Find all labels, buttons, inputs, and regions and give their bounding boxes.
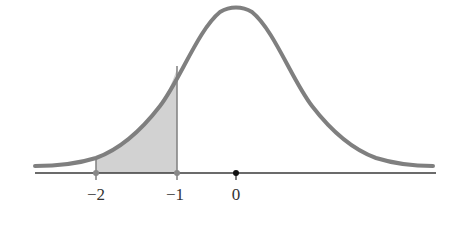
marker-zero (233, 170, 239, 176)
marker-minus-1 (174, 170, 180, 176)
tick-label-minus-2: −2 (87, 186, 105, 203)
marker-minus-2 (93, 170, 99, 176)
bell-curve (35, 8, 433, 167)
normal-curve-diagram (0, 0, 455, 227)
shaded-area (96, 69, 177, 173)
tick-label-minus-1: −1 (166, 186, 184, 203)
tick-label-zero: 0 (232, 186, 241, 203)
